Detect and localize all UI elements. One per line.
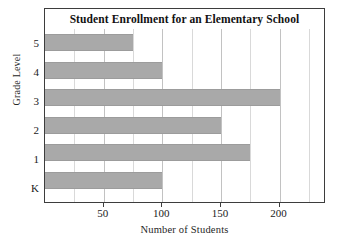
y-tick-label: K <box>22 174 42 203</box>
bar-row <box>45 139 324 167</box>
y-tick-label: 3 <box>22 86 42 115</box>
bar-grade-4 <box>45 62 162 79</box>
y-tick-label: 2 <box>22 116 42 145</box>
plot-frame: Student Enrollment for an Elementary Sch… <box>44 8 325 203</box>
bar-row <box>45 29 324 57</box>
bar-row <box>45 167 324 195</box>
y-tick-label: 4 <box>22 57 42 86</box>
bar-grade-3 <box>45 89 280 106</box>
plot-area <box>45 29 324 202</box>
y-axis-title: Grade Level <box>11 20 22 140</box>
x-tick-label: 150 <box>212 207 229 219</box>
y-tick-label: 1 <box>22 145 42 174</box>
x-axis-title: Number of Students <box>44 224 325 235</box>
chart-title: Student Enrollment for an Elementary Sch… <box>45 13 324 25</box>
x-tick-label: 200 <box>270 207 287 219</box>
x-tick-label: 50 <box>97 207 108 219</box>
bar-grade-1 <box>45 144 250 161</box>
bar-row <box>45 112 324 140</box>
bar-chart-figure: Grade Level 5 4 3 2 1 K Student Enrollme… <box>0 0 337 244</box>
bar-grade-k <box>45 172 162 189</box>
x-axis-ticks: 50100150200 <box>44 203 325 219</box>
bar-row <box>45 57 324 85</box>
y-axis-tick-labels: 5 4 3 2 1 K <box>22 28 42 203</box>
bar-row <box>45 84 324 112</box>
x-tick-label: 100 <box>153 207 170 219</box>
bar-series <box>45 29 324 194</box>
bar-grade-5 <box>45 34 133 51</box>
y-tick-label: 5 <box>22 28 42 57</box>
bar-grade-2 <box>45 117 221 134</box>
